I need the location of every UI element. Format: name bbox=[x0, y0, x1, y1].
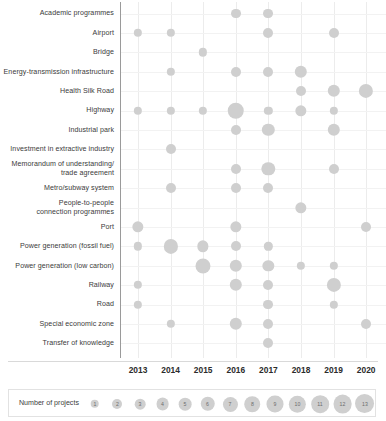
legend-item: 10 bbox=[289, 395, 306, 412]
x-axis-tick-label: 2015 bbox=[194, 365, 213, 375]
category-label: Railway bbox=[89, 281, 114, 289]
bubble-point bbox=[359, 84, 373, 98]
legend-item: 3 bbox=[134, 398, 145, 409]
legend-value: 8 bbox=[251, 401, 254, 407]
category-label: Health Silk Road bbox=[60, 87, 114, 95]
bubble-point bbox=[297, 262, 305, 270]
bubble-point bbox=[163, 239, 177, 253]
bubble-point bbox=[134, 242, 142, 250]
bubble-point bbox=[264, 242, 272, 250]
bubble-point bbox=[132, 221, 143, 232]
bubble-point bbox=[329, 106, 337, 114]
bubble-point bbox=[166, 29, 174, 37]
category-label: Port bbox=[101, 223, 114, 231]
category-label: Bridge bbox=[93, 48, 114, 56]
size-legend: Number of projects 12345678910111213 bbox=[8, 389, 376, 417]
bubble-point bbox=[296, 86, 306, 96]
bubble-point bbox=[361, 319, 371, 329]
category-label: Airport bbox=[93, 29, 114, 37]
legend-value: 2 bbox=[116, 401, 119, 407]
bubble-point bbox=[134, 300, 142, 308]
x-axis-tick-label: 2014 bbox=[161, 365, 180, 375]
legend-item: 5 bbox=[178, 397, 191, 410]
bubble-point bbox=[166, 320, 174, 328]
category-label: Memorandum of understanding/ trade agree… bbox=[11, 160, 114, 177]
bubble-point bbox=[262, 162, 275, 175]
bubble-point bbox=[166, 183, 176, 193]
bubble-point bbox=[295, 202, 306, 213]
bubble-point bbox=[231, 67, 241, 77]
bubble-point bbox=[263, 319, 273, 329]
legend-item: 9 bbox=[267, 396, 284, 413]
category-label: Highway bbox=[86, 106, 114, 114]
bubble-point bbox=[263, 183, 273, 193]
bubble-point bbox=[196, 258, 211, 273]
bubble-point bbox=[262, 124, 274, 136]
bubble-point bbox=[230, 221, 241, 232]
bubble-point bbox=[230, 279, 242, 291]
category-label: Power generation (low carbon) bbox=[15, 262, 114, 270]
legend-value: 7 bbox=[229, 401, 232, 407]
bubble-point bbox=[166, 106, 174, 114]
bubble-point bbox=[326, 278, 340, 292]
legend-value: 12 bbox=[340, 401, 346, 407]
category-label: Industrial park bbox=[68, 126, 114, 134]
bubble-point bbox=[295, 65, 307, 77]
bubble-point bbox=[134, 106, 142, 114]
bubble-point bbox=[230, 259, 242, 271]
bubble-point bbox=[166, 144, 176, 154]
category-label: Academic programmes bbox=[40, 9, 114, 17]
bubble-point bbox=[263, 260, 274, 271]
bubble-point bbox=[329, 300, 337, 308]
category-label: Power generation (fossil fuel) bbox=[20, 242, 114, 250]
bubble-chart: Academic programmesAirportBridgeEnergy-t… bbox=[0, 0, 386, 421]
x-axis-tick-label: 2020 bbox=[357, 365, 376, 375]
x-axis-labels: 201320142015201620172018201920202021 bbox=[120, 365, 386, 381]
bubble-point bbox=[263, 300, 273, 310]
category-label: Investment in extractive industry bbox=[10, 145, 114, 153]
bubble-point bbox=[231, 183, 241, 193]
legend-items: 12345678910111213 bbox=[9, 390, 377, 418]
x-axis-tick-label: 2013 bbox=[129, 365, 148, 375]
x-axis-tick-label: 2017 bbox=[259, 365, 278, 375]
category-label: Road bbox=[97, 300, 114, 308]
category-label: Transfer of knowledge bbox=[43, 339, 114, 347]
legend-value: 11 bbox=[317, 401, 322, 407]
x-axis-separator bbox=[8, 361, 378, 362]
category-label: Energy-transmission infrastructure bbox=[4, 68, 114, 76]
category-label: Special economic zone bbox=[40, 320, 114, 328]
x-axis-tick-label: 2016 bbox=[226, 365, 245, 375]
legend-value: 4 bbox=[161, 401, 164, 407]
bubble-point bbox=[327, 124, 339, 136]
bubble-point bbox=[263, 280, 273, 290]
bubble-point bbox=[198, 241, 209, 252]
bubble-point bbox=[134, 281, 142, 289]
legend-item: 6 bbox=[200, 397, 214, 411]
legend-value: 1 bbox=[94, 401, 97, 407]
x-axis-tick-label: 2019 bbox=[324, 365, 343, 375]
bubble-point bbox=[295, 105, 306, 116]
legend-value: 9 bbox=[274, 401, 277, 407]
category-label: People-to-people connection programmes bbox=[36, 199, 114, 216]
legend-item: 8 bbox=[245, 396, 261, 412]
legend-value: 10 bbox=[295, 401, 301, 407]
legend-item: 1 bbox=[91, 400, 99, 408]
legend-value: 13 bbox=[362, 401, 368, 407]
legend-item: 13 bbox=[356, 395, 375, 414]
legend-item: 4 bbox=[156, 398, 168, 410]
bubble-point bbox=[231, 241, 241, 251]
legend-value: 5 bbox=[184, 401, 187, 407]
plot-area: Academic programmesAirportBridgeEnergy-t… bbox=[0, 0, 386, 362]
legend-item: 7 bbox=[222, 396, 237, 411]
bubble-point bbox=[228, 102, 245, 119]
bubble-point bbox=[230, 318, 242, 330]
bubble-point bbox=[199, 106, 207, 114]
legend-value: 6 bbox=[206, 401, 209, 407]
bubble-point bbox=[166, 68, 174, 76]
bubble-point bbox=[264, 106, 272, 114]
bubble-point bbox=[329, 28, 339, 38]
x-axis-tick-label: 2018 bbox=[292, 365, 311, 375]
bubble-point bbox=[329, 164, 339, 174]
legend-item: 12 bbox=[333, 395, 351, 413]
bubble-series bbox=[120, 0, 386, 362]
